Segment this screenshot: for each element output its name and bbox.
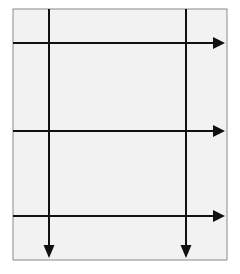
arrow-grid-diagram <box>0 0 240 274</box>
diagram-panel <box>13 9 227 260</box>
